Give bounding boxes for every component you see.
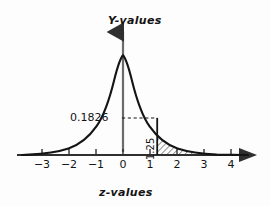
normal-curve	[22, 55, 248, 155]
x-tick-label-3: 3	[195, 158, 213, 171]
shaded-tail-area	[29, 55, 252, 155]
y-axis-title: Y-values	[108, 14, 162, 27]
x-tick-label-neg3: −3	[33, 158, 51, 171]
x-tick-label-2: 2	[168, 158, 186, 171]
x-tick-label-4: 4	[222, 158, 240, 171]
x-axis-title: z-values	[99, 186, 153, 199]
x-tick-label-neg2: −2	[60, 158, 78, 171]
x-tick-label-neg1: −1	[87, 158, 105, 171]
x-tick-label-0: 0	[114, 158, 132, 171]
z-boundary-label: 1.25	[145, 138, 156, 160]
distribution-plot	[0, 0, 270, 206]
normal-distribution-figure: Y-values z-values 0.1826 −3 −2 −1 0 1 2 …	[0, 0, 270, 206]
density-value-label: 0.1826	[70, 111, 109, 124]
